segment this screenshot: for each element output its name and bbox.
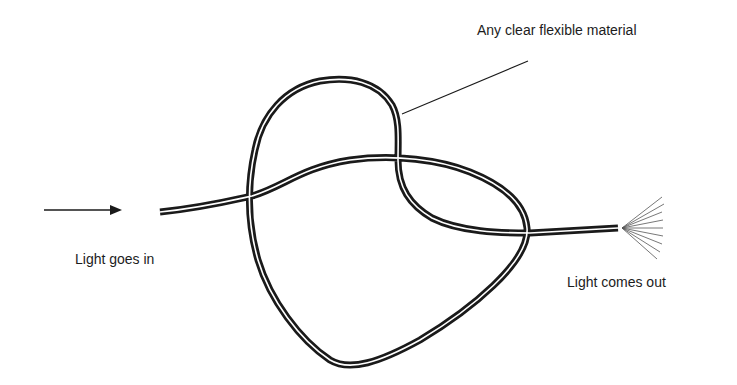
diagram-canvas [0, 0, 737, 385]
light-in-label: Light goes in [75, 252, 154, 266]
light-rays-icon [622, 197, 664, 259]
knotted-tube [160, 79, 618, 365]
light-out-label: Light comes out [567, 275, 666, 289]
arrow-right-icon [44, 205, 122, 215]
material-label: Any clear flexible material [477, 23, 637, 37]
callout-line [402, 61, 528, 114]
